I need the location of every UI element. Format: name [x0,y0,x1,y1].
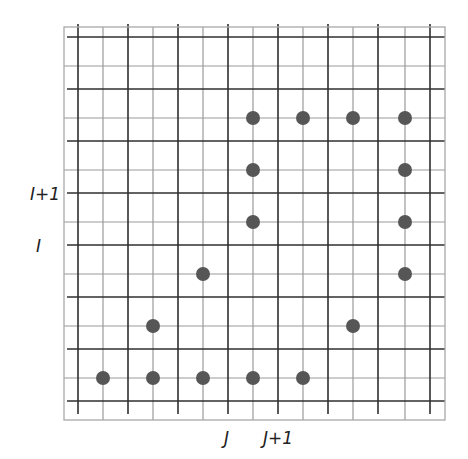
sample-point-dot [398,163,412,177]
sample-point-dot [246,111,260,125]
staggered-grid-diagram: I+1 I J J+1 [0,0,468,459]
sample-point-dot [296,111,310,125]
row-label-i: I [36,236,41,256]
sample-point-dot [246,215,260,229]
sample-point-dot [398,111,412,125]
sample-point-dot [146,319,160,333]
sample-point-dot [398,215,412,229]
row-label-i-plus-1: I+1 [30,184,60,204]
sample-point-dot [196,267,210,281]
sample-point-dot [146,371,160,385]
sample-point-dot [246,163,260,177]
background [0,0,468,459]
sample-point-dot [296,371,310,385]
sample-point-dot [196,371,210,385]
sample-point-dot [398,267,412,281]
sample-point-dot [346,319,360,333]
column-label-j-plus-1: J+1 [260,428,293,448]
sample-point-dot [246,371,260,385]
sample-point-dot [346,111,360,125]
sample-point-dot [96,371,110,385]
